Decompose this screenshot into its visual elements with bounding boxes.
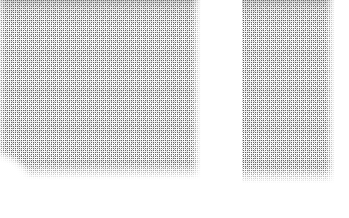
left-block-right-fade (191, 0, 201, 179)
left-block-top-band (0, 0, 201, 14)
page-canvas (0, 0, 349, 218)
right-block-bottom-fade (242, 167, 335, 183)
right-block-top-band (242, 0, 335, 14)
right-block-right-fade (325, 0, 335, 183)
right-text-block (242, 0, 335, 183)
left-block-bottom-fade (0, 163, 201, 179)
left-text-block (0, 0, 201, 179)
